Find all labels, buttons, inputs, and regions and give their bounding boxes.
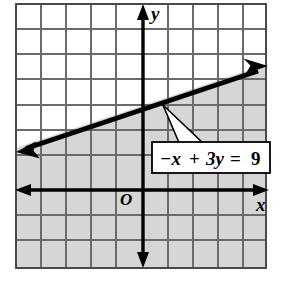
coordinate-plane-figure: y x O −x + 3y = 9 [0, 0, 281, 286]
eqn-plus: + [189, 148, 200, 169]
eqn-minus-x-text: −x [160, 148, 182, 169]
graph-svg: y x O −x + 3y = 9 [0, 0, 281, 286]
origin-label: O [120, 190, 132, 209]
x-axis-label: x [255, 194, 266, 215]
y-axis-label: y [149, 3, 160, 24]
eqn-nine: 9 [251, 148, 261, 169]
callout-seam-mask [154, 143, 268, 147]
eqn-minus-x: −x [160, 148, 182, 169]
eqn-three-y: 3y [205, 148, 225, 169]
eqn-equals: = [230, 148, 241, 169]
